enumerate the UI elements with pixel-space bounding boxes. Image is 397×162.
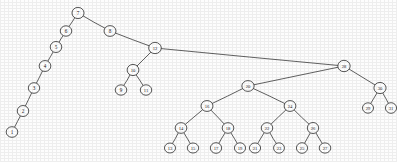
tree-node-5: 5 bbox=[50, 41, 62, 52]
tree-edge bbox=[184, 133, 190, 143]
tree-edge bbox=[258, 133, 264, 143]
node-label: 10 bbox=[131, 68, 136, 73]
tree-edge bbox=[137, 52, 150, 65]
tree-node-30: 30 bbox=[374, 82, 386, 93]
tree-edge bbox=[69, 18, 74, 26]
tree-node-2: 2 bbox=[17, 106, 28, 117]
tree-node-17: 17 bbox=[210, 143, 221, 154]
tree-edge bbox=[212, 89, 242, 104]
tree-node-19: 19 bbox=[234, 143, 245, 153]
node-label: 29 bbox=[366, 106, 371, 111]
tree-edge bbox=[371, 93, 377, 103]
node-label: 28 bbox=[342, 64, 347, 69]
tree-node-27: 27 bbox=[319, 143, 331, 153]
tree-edge bbox=[383, 93, 388, 103]
tree-edge bbox=[15, 116, 21, 127]
tree-edge bbox=[211, 110, 224, 123]
tree-node-24: 24 bbox=[284, 101, 296, 112]
tree-edge bbox=[270, 133, 276, 143]
tree-node-7: 7 bbox=[72, 7, 84, 18]
tree-node-4: 4 bbox=[39, 61, 51, 72]
node-label: 8 bbox=[109, 28, 112, 34]
tree-node-22: 22 bbox=[261, 123, 272, 134]
node-label: 12 bbox=[153, 46, 158, 51]
tree-node-20: 20 bbox=[242, 81, 254, 92]
node-label: 17 bbox=[214, 146, 219, 151]
tree-node-3: 3 bbox=[28, 83, 39, 94]
tree-node-6: 6 bbox=[60, 26, 72, 36]
node-label: 21 bbox=[253, 146, 258, 151]
node-label: 3 bbox=[33, 85, 36, 91]
tree-node-21: 21 bbox=[249, 143, 260, 153]
tree-node-12: 12 bbox=[149, 42, 162, 53]
tree-edge bbox=[231, 133, 237, 143]
tree-node-29: 29 bbox=[362, 103, 373, 113]
node-label: 22 bbox=[265, 126, 270, 131]
node-label: 24 bbox=[288, 104, 293, 109]
node-label: 20 bbox=[246, 84, 251, 89]
tree-edge bbox=[305, 133, 311, 143]
node-label: 7 bbox=[77, 10, 80, 16]
tree-edge bbox=[254, 67, 338, 85]
tree-edge bbox=[48, 52, 53, 61]
tree-node-14: 14 bbox=[175, 123, 187, 134]
node-label: 6 bbox=[65, 28, 68, 34]
tree-edge bbox=[349, 69, 375, 85]
node-label: 1 bbox=[11, 129, 14, 135]
node-label: 18 bbox=[226, 126, 231, 131]
node-label: 11 bbox=[144, 88, 149, 93]
node-label: 4 bbox=[44, 63, 47, 69]
tree-node-28: 28 bbox=[338, 60, 350, 71]
tree-node-16: 16 bbox=[201, 101, 213, 112]
tree-node-15: 15 bbox=[187, 143, 198, 153]
tree-edge bbox=[124, 75, 130, 85]
tree-node-26: 26 bbox=[307, 123, 318, 134]
tree-node-10: 10 bbox=[127, 64, 139, 75]
node-label: 23 bbox=[277, 146, 282, 151]
node-label: 5 bbox=[55, 44, 58, 50]
node-label: 31 bbox=[389, 106, 394, 111]
node-label: 30 bbox=[378, 86, 383, 91]
node-label: 19 bbox=[238, 146, 243, 151]
tree-edge bbox=[59, 36, 63, 42]
node-label: 13 bbox=[168, 146, 173, 151]
tree-edge bbox=[316, 133, 322, 143]
node-label: 9 bbox=[120, 87, 123, 93]
tree-edge bbox=[83, 16, 105, 28]
tree-node-8: 8 bbox=[104, 26, 116, 37]
tree-node-11: 11 bbox=[140, 85, 151, 95]
tree-edge bbox=[37, 71, 43, 83]
node-label: 26 bbox=[311, 126, 316, 131]
tree-node-23: 23 bbox=[274, 143, 285, 153]
node-label: 27 bbox=[323, 146, 328, 151]
tree-node-25: 25 bbox=[296, 143, 307, 154]
node-label: 16 bbox=[205, 104, 210, 109]
tree-node-31: 31 bbox=[385, 103, 396, 114]
tree-edge bbox=[271, 110, 285, 124]
node-label: 14 bbox=[179, 126, 184, 131]
edge-layer bbox=[15, 16, 389, 143]
tree-edge bbox=[136, 75, 143, 85]
tree-edge bbox=[253, 89, 284, 104]
tree-node-9: 9 bbox=[115, 85, 127, 95]
tree-edge bbox=[26, 93, 32, 106]
tree-edge bbox=[173, 133, 179, 143]
tree-diagram-canvas: 7654321812109112820161413151817192422212… bbox=[0, 0, 397, 162]
tree-edge bbox=[115, 33, 149, 46]
node-label: 2 bbox=[22, 108, 25, 114]
binary-tree-graphic: 7654321812109112820161413151817192422212… bbox=[0, 0, 397, 162]
tree-edge bbox=[185, 110, 202, 124]
node-label: 15 bbox=[191, 146, 196, 151]
node-layer: 7654321812109112820161413151817192422212… bbox=[6, 7, 396, 153]
tree-node-13: 13 bbox=[164, 143, 175, 153]
tree-edge bbox=[219, 133, 225, 143]
tree-node-18: 18 bbox=[222, 123, 234, 134]
tree-edge bbox=[161, 49, 338, 66]
node-label: 25 bbox=[300, 146, 305, 151]
tree-node-1: 1 bbox=[6, 127, 18, 138]
tree-edge bbox=[294, 110, 308, 124]
